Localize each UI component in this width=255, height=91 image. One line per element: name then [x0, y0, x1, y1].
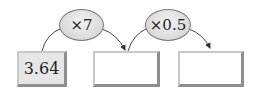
- answer-box-2[interactable]: [178, 51, 244, 87]
- answer-box-1[interactable]: [93, 51, 160, 87]
- operator-label: ×0.5: [150, 16, 186, 34]
- arrow-out-2: [189, 29, 210, 48]
- operator-multiply-7: ×7: [59, 9, 104, 41]
- start-value-box: 3.64: [17, 51, 67, 87]
- operator-label: ×7: [70, 16, 92, 34]
- start-value: 3.64: [24, 59, 60, 78]
- arrow-in-2: [128, 28, 148, 51]
- arrow-in-1: [42, 28, 62, 51]
- operator-multiply-0-5: ×0.5: [145, 9, 191, 41]
- arrow-out-1: [102, 29, 125, 50]
